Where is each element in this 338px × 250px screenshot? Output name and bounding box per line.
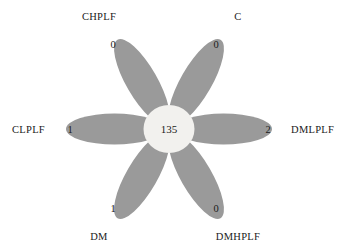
petal-dmhplf-label: DMHPLF <box>216 231 260 242</box>
petal-chplf-label: CHPLF <box>82 11 116 22</box>
core-value-label: 135 <box>161 123 178 135</box>
petal-dmhplf-value: 0 <box>213 203 218 214</box>
petal-dmlplf-value: 2 <box>265 124 270 135</box>
petal-dm-label: DM <box>90 231 108 242</box>
petal-clplf-label: CLPLF <box>12 124 45 135</box>
core-group: 135 <box>144 105 195 153</box>
petal-c-label: C <box>234 11 241 22</box>
flower-plot-chart: 135 CHPLF0C0DMLPLF2DMHPLF0DM1CLPLF1 <box>0 0 338 250</box>
petal-c-value: 0 <box>213 39 218 50</box>
petal-dmlplf-label: DMLPLF <box>291 124 334 135</box>
petal-chplf-value: 0 <box>110 39 115 50</box>
petal-dm-value: 1 <box>110 203 115 214</box>
petal-clplf-value: 1 <box>67 124 72 135</box>
